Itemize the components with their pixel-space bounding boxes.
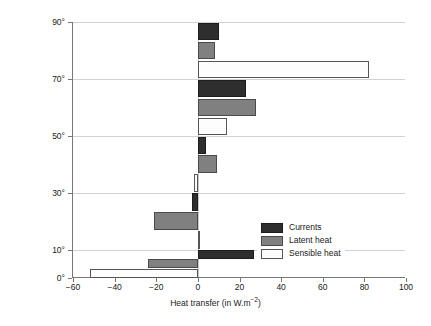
bar-latent (154, 212, 198, 229)
y-tick-label: 90° (0, 17, 65, 27)
x-tick-label: −40 (107, 282, 121, 292)
x-tick-label: 20 (235, 282, 244, 292)
bar-sensible (198, 231, 200, 248)
x-tick-label: −60 (66, 282, 80, 292)
chart-figure: Latitudes (North or South) 0°10°30°50°70… (0, 0, 431, 326)
y-tick-label: 10° (0, 245, 65, 255)
bar-latent (198, 155, 217, 172)
chart-legend: CurrentsLatent heatSensible heat (257, 218, 345, 263)
y-tick-label: 70° (0, 74, 65, 84)
gridline (73, 22, 405, 23)
bar-latent (148, 259, 198, 268)
legend-swatch-currents (261, 223, 283, 233)
x-axis-label-exponent: −2 (251, 296, 258, 303)
bar-sensible (198, 61, 369, 78)
legend-label: Sensible heat (289, 249, 341, 258)
x-axis-label-text: Heat transfer (in W.m (170, 298, 250, 308)
legend-item: Latent heat (261, 234, 341, 247)
bar-sensible (194, 174, 198, 191)
y-tick-label: 0° (0, 273, 65, 283)
bar-latent (198, 99, 256, 116)
legend-label: Currents (289, 223, 322, 232)
gridline (73, 193, 405, 194)
legend-swatch-sensible (261, 249, 283, 259)
y-tick-label: 50° (0, 131, 65, 141)
x-tick-label: 60 (318, 282, 327, 292)
bar-currents (198, 80, 246, 97)
y-tick-mark (68, 278, 72, 279)
x-tick-label: 0 (196, 282, 201, 292)
y-tick-label: 30° (0, 188, 65, 198)
legend-label: Latent heat (289, 236, 332, 245)
gridline (73, 136, 405, 137)
x-axis-label-tail: ) (258, 298, 261, 308)
x-tick-label: 100 (399, 282, 413, 292)
x-tick-label: −20 (149, 282, 163, 292)
bar-latent (198, 42, 215, 59)
bar-currents (198, 23, 219, 40)
x-axis-label: Heat transfer (in W.m−2) (0, 296, 431, 308)
bar-sensible (90, 269, 198, 278)
plot-area: −60−40−20020406080100 (72, 22, 405, 278)
bar-currents (192, 193, 198, 210)
bar-currents (198, 137, 206, 154)
bar-currents (198, 250, 254, 259)
x-tick-label: 80 (360, 282, 369, 292)
legend-item: Sensible heat (261, 247, 341, 260)
legend-item: Currents (261, 221, 341, 234)
x-tick-label: 40 (276, 282, 285, 292)
bar-sensible (198, 118, 227, 135)
legend-swatch-latent (261, 236, 283, 246)
